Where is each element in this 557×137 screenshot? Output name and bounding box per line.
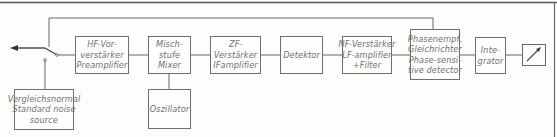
- block-label: stufe: [159, 50, 180, 61]
- block-label: IFamplifier: [213, 60, 258, 71]
- noise-source-block: Vergleichsnormal Standard noise source: [14, 89, 74, 130]
- block-label: Oszillator: [150, 104, 189, 115]
- mixer-block: Misch- stufe Mixer: [148, 36, 191, 74]
- block-label: NF-Verstärker: [339, 39, 396, 50]
- block-label: verstärker: [80, 50, 123, 61]
- meter-box: [523, 45, 546, 66]
- block-label: Mixer: [158, 60, 181, 71]
- block-label: ZF-: [229, 39, 242, 50]
- block-label: Misch-: [156, 39, 183, 50]
- oscillator-block: Oszillator: [148, 89, 191, 129]
- block-label: Preamplifier: [77, 60, 128, 71]
- block-label: HF-Vor-: [87, 39, 117, 50]
- block-diagram: HF-Vor- verstärker Preamplifier Misch- s…: [0, 0, 557, 137]
- hf-preamplifier-block: HF-Vor- verstärker Preamplifier: [75, 36, 129, 74]
- block-label: grator: [478, 56, 504, 67]
- block-label: Verstärker: [214, 50, 258, 61]
- detector-block: Detektor: [280, 36, 323, 74]
- output-arrow-icon: [10, 45, 18, 51]
- block-label: Detektor: [283, 50, 320, 61]
- block-label: source: [30, 115, 58, 126]
- switch-contact: [56, 54, 59, 57]
- block-label: Inte-: [481, 45, 500, 56]
- block-label: Standard noise: [12, 104, 75, 115]
- block-label: Phase-sensi-: [409, 55, 462, 66]
- switch-contact-noise: [44, 59, 47, 62]
- block-label: Vergleichsnormal: [8, 94, 81, 105]
- block-label: Phasenempf.: [408, 34, 462, 45]
- switch-blade: [45, 48, 57, 55]
- phase-detector-block: Phasenempf. Gleichrichter Phase-sensi- t…: [410, 29, 460, 80]
- integrator-block: Inte- grator: [475, 37, 506, 74]
- block-label: tive detector: [408, 65, 462, 76]
- block-label: LF-amplifier: [342, 50, 391, 61]
- if-amplifier-block: ZF- Verstärker IFamplifier: [210, 36, 261, 74]
- block-label: Gleichrichter: [408, 44, 462, 55]
- block-label: +Filter: [353, 60, 381, 71]
- lf-amplifier-block: NF-Verstärker LF-amplifier +Filter: [342, 36, 392, 74]
